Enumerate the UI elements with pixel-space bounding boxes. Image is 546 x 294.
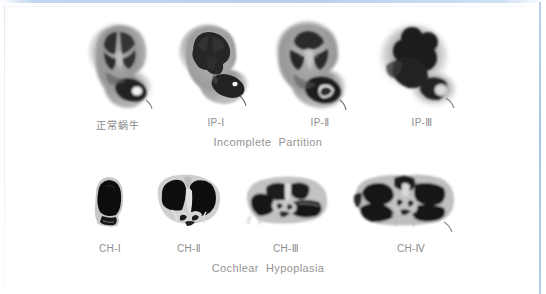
- specimen-image-ip-3: [372, 18, 458, 112]
- caption-normal-cochlea: 正常蜗牛: [96, 117, 140, 132]
- group-caption-word-1: Incomplete: [214, 136, 272, 148]
- specimen-image-ip-1: [176, 18, 254, 112]
- page-border-inner-top: [6, 6, 526, 7]
- caption-ch-3: CH-Ⅲ: [273, 243, 299, 254]
- group-caption-word-2: Hypoplasia: [266, 262, 324, 274]
- specimen-image-ch-1: [84, 172, 134, 234]
- caption-ch-2: CH-Ⅱ: [177, 243, 201, 254]
- specimen-image-ch-4: [352, 170, 458, 236]
- page-border-left: [4, 4, 5, 290]
- group-caption-word-1: Cochlear: [212, 262, 259, 274]
- specimen-image-ip-2: [270, 16, 352, 112]
- group-caption-word-2: Partition: [278, 136, 322, 148]
- caption-ch-1: CH-Ⅰ: [99, 243, 121, 254]
- specimen-image-ch-3: [243, 172, 331, 234]
- page-border-top: [0, 0, 546, 3]
- caption-ip-3: IP-Ⅲ: [412, 117, 433, 128]
- caption-ch-4: CH-Ⅳ: [397, 243, 425, 254]
- group-caption-cochlear-hypoplasia: CochlearHypoplasia: [212, 262, 325, 274]
- group-caption-incomplete-partition: IncompletePartition: [214, 136, 323, 148]
- specimen-image-ch-2: [152, 170, 226, 234]
- page-border-right: [539, 2, 541, 294]
- caption-ip-2: IP-Ⅱ: [311, 117, 330, 128]
- specimen-image-normal-cochlea: [82, 16, 160, 112]
- cochlear-malformation-figure: 正常蜗牛: [0, 0, 546, 294]
- caption-ip-1: IP-Ⅰ: [208, 117, 225, 128]
